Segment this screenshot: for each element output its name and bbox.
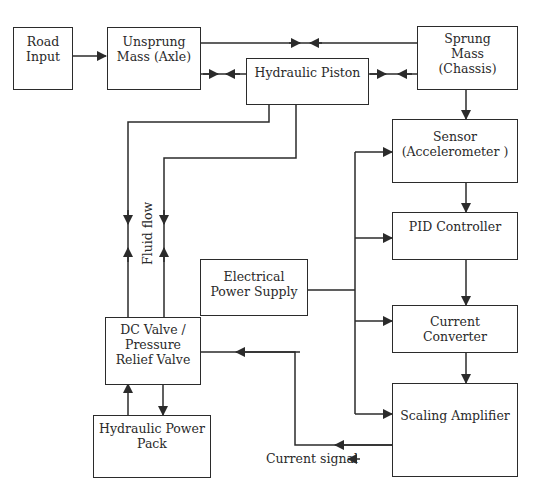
block-label: Pack: [137, 436, 167, 451]
block-label: Input: [26, 49, 60, 64]
electrical-power-supply-block: Electrical Power Supply: [200, 259, 308, 316]
hydraulic-piston-block: Hydraulic Piston: [246, 58, 369, 105]
fluid-flow-label: Fluid flow: [140, 202, 155, 265]
block-label: (Chassis): [438, 61, 496, 76]
block-label: Power Supply: [210, 284, 297, 299]
block-label: Road: [27, 34, 59, 49]
block-label: Pressure: [125, 337, 181, 352]
block-label: Sensor: [433, 129, 477, 144]
block-label: Hydraulic Piston: [255, 65, 361, 80]
block-label: Current: [430, 314, 480, 329]
sensor-block: Sensor (Accelerometer ): [392, 119, 518, 183]
block-label: Mass: [451, 46, 484, 61]
power-bus: [307, 152, 355, 414]
block-label: Relief Valve: [116, 352, 191, 367]
block-label: Unsprung: [122, 34, 185, 49]
dc-valve-block: DC Valve / Pressure Relief Valve: [105, 317, 201, 385]
current-signal-line: [200, 352, 392, 445]
block-label: PID Controller: [409, 219, 501, 234]
block-label: Scaling Amplifier: [400, 408, 510, 423]
scaling-amplifier-block: Scaling Amplifier: [392, 383, 518, 477]
block-label: Sprung: [444, 31, 491, 46]
unsprung-mass-block: Unsprung Mass (Axle): [107, 27, 201, 90]
road-input-block: Road Input: [13, 27, 73, 90]
hydraulic-power-pack-block: Hydraulic Power Pack: [93, 415, 211, 478]
block-label: DC Valve /: [120, 322, 186, 337]
pid-controller-block: PID Controller: [392, 212, 518, 260]
current-signal-label: Current signal: [266, 451, 358, 466]
block-label: Mass (Axle): [117, 49, 191, 64]
current-converter-block: Current Converter: [392, 305, 518, 353]
sprung-mass-block: Sprung Mass (Chassis): [417, 26, 518, 90]
block-label: Converter: [423, 329, 487, 344]
block-label: Hydraulic Power: [99, 421, 205, 436]
block-label: (Accelerometer ): [402, 144, 509, 159]
block-label: Electrical: [224, 269, 285, 284]
